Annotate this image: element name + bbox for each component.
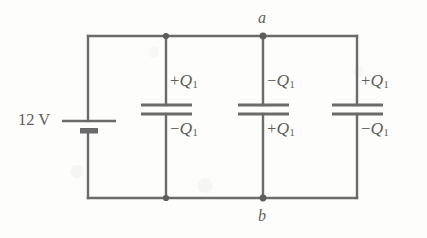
charge-symbol: Q bbox=[371, 118, 384, 138]
charge-label-c1-bottom: −Q1 bbox=[170, 120, 198, 139]
charge-symbol: Q bbox=[180, 70, 193, 90]
charge-subscript: 1 bbox=[384, 79, 389, 90]
junction-dot-c1-bottom bbox=[163, 195, 169, 201]
charge-label-c2-bottom: +Q1 bbox=[267, 120, 295, 139]
charge-label-c3-top: +Q1 bbox=[361, 72, 389, 91]
charge-sign: − bbox=[267, 71, 277, 90]
battery-symbol bbox=[62, 121, 116, 134]
charge-label-c1-top: +Q1 bbox=[170, 72, 198, 91]
charge-subscript: 1 bbox=[290, 79, 295, 90]
battery-short-plate bbox=[80, 128, 98, 134]
charge-label-c2-top: −Q1 bbox=[267, 72, 295, 91]
charge-sign: − bbox=[170, 119, 180, 138]
voltage-source-label: 12 V bbox=[18, 112, 50, 129]
charge-symbol: Q bbox=[277, 118, 290, 138]
capacitor-c1-plates bbox=[141, 105, 192, 114]
node-label-a: a bbox=[258, 10, 266, 26]
circuit-diagram: 12 V a b +Q1 −Q1 −Q1 +Q1 +Q1 −Q1 bbox=[0, 0, 427, 238]
charge-symbol: Q bbox=[277, 70, 290, 90]
junction-dot-node-a bbox=[260, 33, 267, 40]
junction-dot-c1-top bbox=[163, 33, 169, 39]
charge-subscript: 1 bbox=[290, 127, 295, 138]
charge-sign: + bbox=[361, 71, 371, 90]
charge-label-c3-bottom: −Q1 bbox=[361, 120, 389, 139]
node-label-b: b bbox=[258, 208, 266, 224]
charge-symbol: Q bbox=[180, 118, 193, 138]
capacitor-c2-plates bbox=[238, 105, 289, 114]
junction-dot-node-b bbox=[260, 195, 267, 202]
charge-sign: + bbox=[170, 71, 180, 90]
charge-subscript: 1 bbox=[384, 127, 389, 138]
charge-sign: − bbox=[361, 119, 371, 138]
charge-symbol: Q bbox=[371, 70, 384, 90]
charge-subscript: 1 bbox=[193, 79, 198, 90]
capacitor-c3-plates bbox=[332, 105, 383, 114]
charge-sign: + bbox=[267, 119, 277, 138]
charge-subscript: 1 bbox=[193, 127, 198, 138]
